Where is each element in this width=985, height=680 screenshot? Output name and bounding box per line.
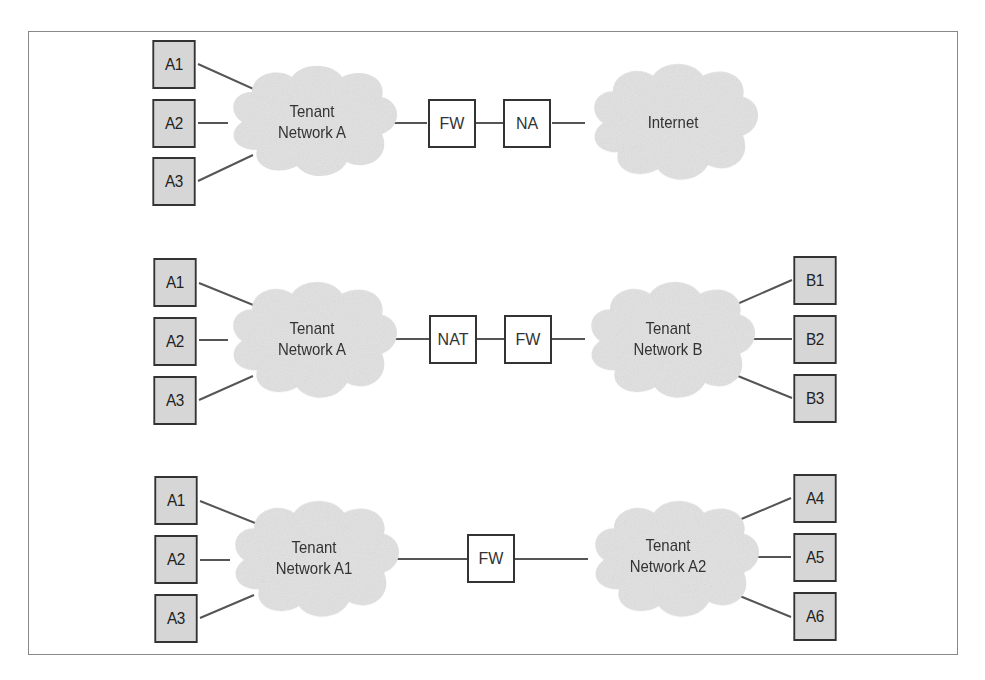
host-a2-row2: A2 bbox=[153, 317, 196, 366]
label-line-1: Tenant bbox=[259, 101, 365, 122]
label-tenant-network-a-row2: Tenant Network A bbox=[259, 318, 365, 360]
host-a2-row3: A2 bbox=[154, 535, 197, 584]
host-a5: A5 bbox=[793, 533, 836, 582]
label-tenant-network-a2: Tenant Network A2 bbox=[615, 535, 721, 577]
label-line-1: Tenant bbox=[261, 537, 367, 558]
device-firewall-row3: FW bbox=[467, 534, 515, 583]
host-b2: B2 bbox=[793, 315, 836, 364]
host-a1-row3: A1 bbox=[154, 476, 197, 525]
device-firewall-row1: FW bbox=[428, 99, 476, 148]
host-a3-row3: A3 bbox=[154, 594, 197, 643]
host-a1-row2: A1 bbox=[153, 258, 196, 307]
host-b1: B1 bbox=[793, 256, 836, 305]
label-line-1: Tenant bbox=[259, 318, 365, 339]
label-tenant-network-a-row1: Tenant Network A bbox=[259, 101, 365, 143]
label-line-1: Tenant bbox=[615, 535, 721, 556]
label-line-2: Network A1 bbox=[261, 558, 367, 579]
label-line-1: Internet bbox=[620, 112, 726, 133]
host-b3: B3 bbox=[793, 374, 836, 423]
host-a6: A6 bbox=[793, 592, 836, 641]
device-firewall-row2: FW bbox=[504, 315, 552, 364]
label-line-2: Network A bbox=[259, 339, 365, 360]
host-a3-row2: A3 bbox=[153, 376, 196, 425]
label-line-2: Network A2 bbox=[615, 556, 721, 577]
label-tenant-network-a1: Tenant Network A1 bbox=[261, 537, 367, 579]
host-a4: A4 bbox=[793, 474, 836, 523]
label-line-2: Network B bbox=[615, 339, 721, 360]
device-na-row1: NA bbox=[503, 99, 551, 148]
host-a2-row1: A2 bbox=[152, 99, 195, 148]
label-tenant-network-b: Tenant Network B bbox=[615, 318, 721, 360]
label-internet: Internet bbox=[620, 112, 726, 133]
host-a3-row1: A3 bbox=[152, 157, 195, 206]
host-a1-row1: A1 bbox=[152, 40, 195, 89]
label-line-2: Network A bbox=[259, 122, 365, 143]
device-nat-row2: NAT bbox=[429, 315, 477, 364]
label-line-1: Tenant bbox=[615, 318, 721, 339]
